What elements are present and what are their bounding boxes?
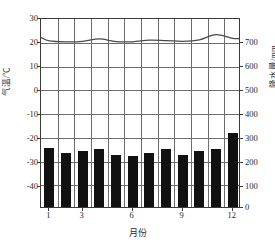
x-axis-tick-label: 9 (172, 211, 192, 220)
climate-chart: 30 20 10 0 -10 -20 -30 -40 700 600 500 4… (0, 0, 275, 250)
right-axis-tick-mark (240, 42, 243, 43)
right-axis-tick-mark (240, 90, 243, 91)
x-axis-tick-label: 3 (72, 211, 92, 220)
x-axis-tick-label: 6 (122, 211, 142, 220)
x-axis-tick-label: 1 (38, 211, 58, 220)
right-axis-tick-label: 500 (245, 86, 258, 95)
x-axis-tick-label: 12 (222, 211, 242, 220)
x-axis-title: 月份 (0, 226, 275, 239)
right-axis-title: 降水量/mm (266, 45, 275, 88)
temperature-line (41, 19, 240, 208)
right-axis-tick-mark (240, 207, 243, 208)
plot-area (40, 18, 240, 208)
right-axis-tick-label: 100 (245, 182, 258, 191)
right-axis-tick-label: 700 (245, 38, 258, 47)
left-axis-title: 气温/℃ (0, 67, 11, 96)
right-axis-tick-mark (240, 66, 243, 67)
right-axis-tick-label: 0 (245, 203, 249, 212)
right-axis-tick-label: 200 (245, 158, 258, 167)
right-axis-tick-mark (240, 162, 243, 163)
right-axis-tick-label: 300 (245, 134, 258, 143)
right-axis-tick-mark (240, 114, 243, 115)
right-axis-tick-label: 400 (245, 110, 258, 119)
right-axis-tick-mark (240, 138, 243, 139)
right-axis-tick-mark (240, 186, 243, 187)
right-axis-tick-label: 600 (245, 62, 258, 71)
